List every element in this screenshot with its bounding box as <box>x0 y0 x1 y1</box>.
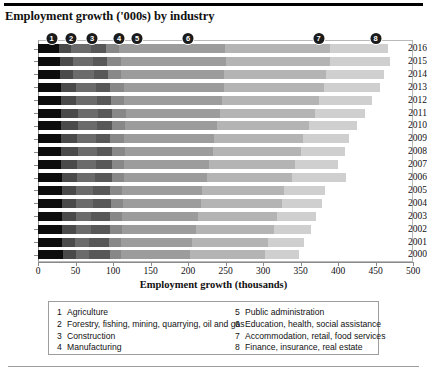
bar-segment <box>121 238 192 247</box>
bar-segment <box>110 212 122 221</box>
bar-segment <box>78 147 98 156</box>
bar-segment <box>61 121 78 130</box>
bar-segment <box>284 186 325 195</box>
x-axis-tick-label: 0 <box>36 266 41 276</box>
bar-segment <box>225 44 330 53</box>
legend-item-label: Accommodation, retail, food services <box>245 331 385 343</box>
bar-segment <box>38 186 62 195</box>
x-axis-tick-label: 200 <box>181 266 195 276</box>
bar-segment <box>125 121 217 130</box>
bar-segment <box>295 160 338 169</box>
bar-segment <box>38 109 61 118</box>
bar-segment <box>224 83 324 92</box>
bar-segment <box>91 44 105 53</box>
bar-segment <box>220 109 315 118</box>
bar-segment <box>214 134 303 143</box>
bar-segment <box>61 134 77 143</box>
bar-segment <box>108 70 122 79</box>
bar-segment <box>38 83 61 92</box>
bar-segment <box>209 160 295 169</box>
bar-segment <box>224 70 326 79</box>
bar-segment <box>98 109 112 118</box>
bar-segment <box>122 186 202 195</box>
chart-page: Employment growth ('000s) by industry 20… <box>0 0 427 371</box>
x-axis-tick-label: 300 <box>256 266 270 276</box>
legend-item-number: 8 <box>235 342 245 354</box>
y-axis-label: 2016 <box>393 43 427 53</box>
bar-segment <box>222 96 319 105</box>
bar-segment <box>207 173 292 182</box>
bar-segment <box>61 96 77 105</box>
bar-segment <box>97 121 111 130</box>
bar-segment <box>110 225 122 234</box>
bar-segment <box>124 96 222 105</box>
legend-column-right: 5Public administration6Education, health… <box>235 307 377 354</box>
legend-item: 1Agriculture <box>57 307 237 319</box>
bar-segment <box>111 96 125 105</box>
bar-segment <box>38 121 61 130</box>
bar-segment <box>277 212 316 221</box>
bar-segment <box>121 250 190 259</box>
bar-segment <box>112 121 126 130</box>
legend-item-label: Construction <box>67 331 237 343</box>
legend-item-number: 4 <box>57 342 67 354</box>
bar-2005 <box>38 186 325 195</box>
bar-2004 <box>38 199 322 208</box>
bar-segment <box>62 212 76 221</box>
callout-badge-8: 8 <box>370 33 381 44</box>
bar-2015 <box>38 57 390 66</box>
bar-segment <box>309 121 357 130</box>
bar-segment <box>265 250 300 259</box>
bar-2016 <box>38 44 388 53</box>
x-axis-tick-label: 400 <box>331 266 345 276</box>
bar-2009 <box>38 134 349 143</box>
bar-segment <box>89 238 109 247</box>
bar-segment <box>109 238 120 247</box>
bar-2007 <box>38 160 338 169</box>
bar-segment <box>60 70 74 79</box>
bar-segment <box>112 147 125 156</box>
legend-item: 8Finance, insurance, real estate <box>235 342 377 354</box>
bar-segment <box>330 57 390 66</box>
legend-item-label: Education, health, social assistance <box>245 319 381 331</box>
y-axis-label: 2002 <box>393 224 427 234</box>
bar-segment <box>94 70 108 79</box>
bar-segment <box>77 173 95 182</box>
y-axis-label: 2011 <box>393 108 427 118</box>
bar-segment <box>292 173 347 182</box>
bar-segment <box>282 199 323 208</box>
callout-badge-4: 4 <box>114 33 125 44</box>
legend-item: 4Manufacturing <box>57 342 237 354</box>
bar-segment <box>112 173 125 182</box>
bar-segment <box>111 199 123 208</box>
callout-badge-2: 2 <box>66 33 77 44</box>
legend-item: 7Accommodation, retail, food services <box>235 331 377 343</box>
bar-2003 <box>38 212 316 221</box>
bar-segment <box>78 109 98 118</box>
x-axis-tick-label: 450 <box>368 266 382 276</box>
bar-segment <box>124 134 214 143</box>
bar-segment <box>226 57 330 66</box>
bar-segment <box>78 121 98 130</box>
bar-segment <box>125 147 213 156</box>
bar-segment <box>76 199 93 208</box>
bar-segment <box>93 199 111 208</box>
bar-segment <box>107 57 121 66</box>
y-axis-label: 2014 <box>393 69 427 79</box>
bottom-divider <box>8 366 419 367</box>
bar-2006 <box>38 173 346 182</box>
bar-segment <box>61 147 78 156</box>
y-axis-label: 2015 <box>393 56 427 66</box>
bar-segment <box>59 44 71 53</box>
bar-segment <box>126 109 221 118</box>
bar-segment <box>91 212 110 221</box>
bar-segment <box>38 147 61 156</box>
bar-segment <box>110 134 124 143</box>
bar-segment <box>202 186 285 195</box>
bar-segment <box>112 109 126 118</box>
legend-item: 2Forestry, fishing, mining, quarrying, o… <box>57 319 237 331</box>
bar-segment <box>124 173 207 182</box>
legend-item-label: Finance, insurance, real estate <box>245 342 377 354</box>
bar-2000 <box>38 250 299 259</box>
bar-segment <box>326 70 384 79</box>
